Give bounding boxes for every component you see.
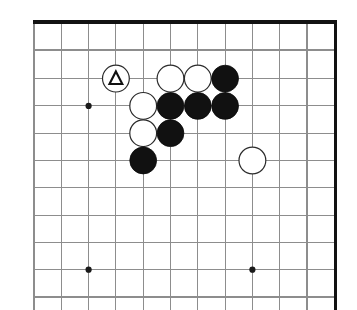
white-stone[interactable] — [184, 65, 211, 92]
black-stone[interactable] — [184, 93, 211, 120]
star-point — [86, 103, 92, 109]
black-stone[interactable] — [130, 147, 157, 174]
star-point — [86, 267, 92, 273]
white-stone[interactable] — [239, 147, 266, 174]
stone-group-row-2[interactable] — [103, 65, 239, 92]
stone-group-row-4[interactable] — [130, 120, 184, 147]
board-border — [33, 21, 337, 310]
white-stone[interactable] — [157, 65, 184, 92]
stone-group-row-3[interactable] — [130, 93, 239, 120]
white-stone[interactable] — [130, 120, 157, 147]
white-stone[interactable] — [130, 93, 157, 120]
star-point — [249, 267, 255, 273]
go-board-canvas[interactable] — [0, 0, 357, 310]
go-board-diagram — [0, 0, 357, 310]
black-stone[interactable] — [212, 65, 239, 92]
black-stone[interactable] — [157, 93, 184, 120]
black-stone[interactable] — [212, 93, 239, 120]
horizontal-grid-lines — [34, 50, 335, 297]
black-stone[interactable] — [157, 120, 184, 147]
